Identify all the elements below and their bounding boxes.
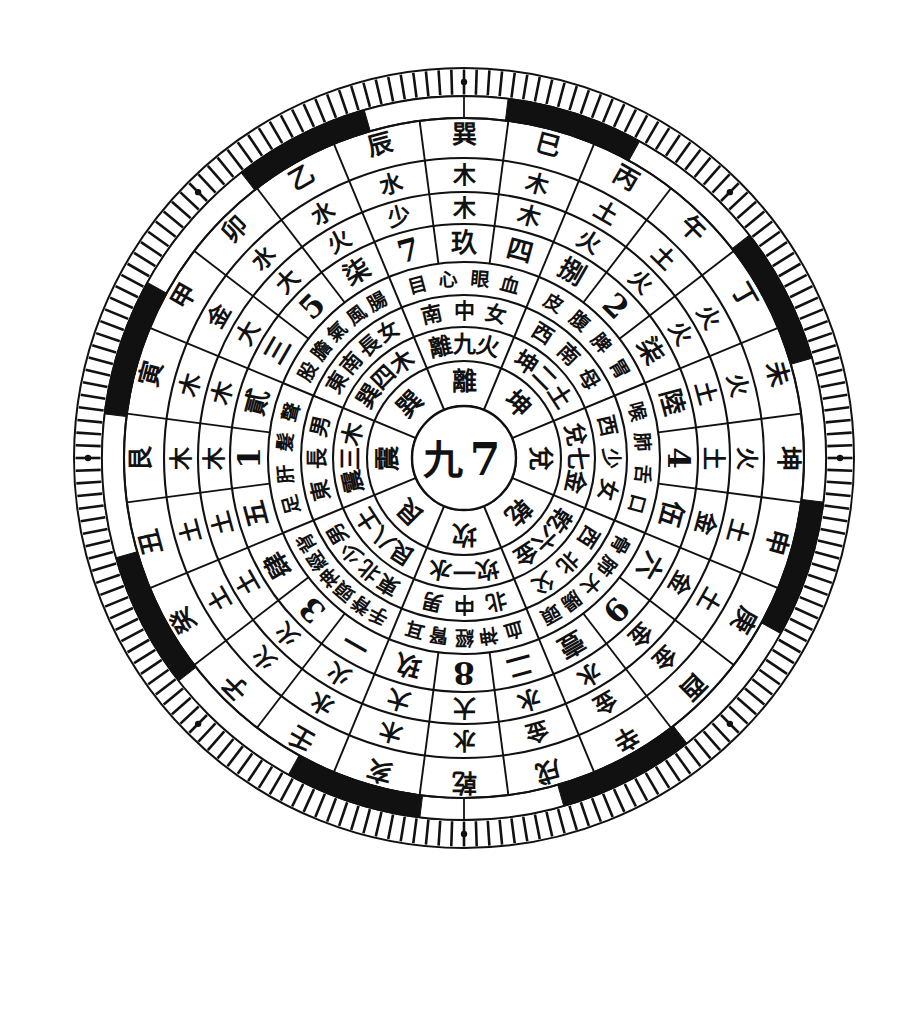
degree-tick <box>827 470 852 471</box>
element-cell: 木 <box>168 447 194 471</box>
trigram-number-element-sector-N: 一 <box>453 559 476 585</box>
degree-tick <box>76 433 101 435</box>
direction-family-sector-N: 中 <box>454 593 475 617</box>
inner-trigram-W: 兌 <box>526 446 555 471</box>
element-cell: 水 <box>452 728 476 754</box>
mountain-cell-坤: 坤 <box>774 446 803 471</box>
degree-tick <box>827 445 852 446</box>
size-mark-cell: 土 <box>701 447 727 470</box>
body-part-sector-S: 眼 <box>469 267 490 291</box>
degree-tick <box>476 821 477 846</box>
degree-tick <box>439 821 441 846</box>
numeral-cell: 8 <box>453 655 475 691</box>
body-part-sector-N: 經 <box>455 627 474 649</box>
trigram-number-element-sector-E: 三 <box>337 447 363 470</box>
mountain-cell-巽: 巽 <box>452 120 477 149</box>
degree-tick <box>827 433 852 435</box>
mountain-cell-艮: 艮 <box>126 445 155 471</box>
numeral-cell: 1 <box>231 447 267 469</box>
numeral-cell: 玖 <box>451 228 477 258</box>
size-mark-cell: 木 <box>452 195 476 221</box>
cardinal-dot-marker <box>195 721 201 727</box>
trigram-number-element-sector-W: 七 <box>565 447 591 470</box>
degree-tick <box>488 821 490 846</box>
degree-tick <box>451 821 452 846</box>
degree-tick <box>488 70 490 95</box>
cardinal-dot-marker <box>461 831 467 837</box>
size-mark-cell: 大 <box>453 695 476 721</box>
cardinal-dot-marker <box>837 455 843 461</box>
mountain-cell-乾: 乾 <box>452 768 477 797</box>
direction-family-sector-E: 長 <box>305 447 329 469</box>
size-mark-cell: 木 <box>201 447 227 471</box>
center-disc: 九7 <box>412 406 516 510</box>
cardinal-dot-marker <box>461 79 467 85</box>
luopan-wheel-svg: 乾亥壬子癸丑艮寅甲卯乙辰巽巳丙午丁未坤申庚酉辛戌木木土土火火火土土金金金水木水火… <box>0 0 907 1015</box>
cardinal-dot-marker <box>85 455 91 461</box>
body-part-sector-E: 肝 <box>273 463 297 484</box>
degree-tick <box>76 470 101 471</box>
numeral-cell: 4 <box>661 447 697 469</box>
body-part-sector-W: 舌 <box>631 463 655 484</box>
body-part-sector-N: 腎 <box>428 624 450 648</box>
degree-tick <box>827 482 852 484</box>
element-cell: 火 <box>734 447 760 470</box>
element-cell: 木 <box>452 162 476 188</box>
cardinal-dot-marker <box>195 189 201 195</box>
direction-family-sector-S: 中 <box>454 299 475 323</box>
compass-figure: 乾亥壬子癸丑艮寅甲卯乙辰巽巳丙午丁未坤申庚酉辛戌木木土土火火火土土金金金水木水火… <box>0 0 907 1015</box>
direction-family-sector-W: 少 <box>599 447 623 469</box>
body-part-sector-S: 心 <box>438 267 459 291</box>
center-label-arabic: 7 <box>470 434 501 485</box>
degree-tick <box>439 70 441 95</box>
cardinal-dot-marker <box>727 721 733 727</box>
degree-tick <box>76 445 101 446</box>
degree-tick <box>76 482 101 484</box>
body-part-sector-E: 髮 <box>273 432 297 453</box>
trigram-number-element-sector-S: 九 <box>452 331 476 357</box>
inner-trigram-N: 坎 <box>452 520 477 549</box>
body-part-sector-W: 肺 <box>631 432 655 453</box>
degree-tick <box>476 70 477 95</box>
center-label-han: 九 <box>423 437 463 483</box>
inner-trigram-S: 離 <box>452 367 477 396</box>
degree-tick <box>451 70 452 95</box>
inner-trigram-E: 震 <box>373 445 402 471</box>
body-part-sector-N: 神 <box>478 624 500 648</box>
cardinal-dot-marker <box>727 189 733 195</box>
